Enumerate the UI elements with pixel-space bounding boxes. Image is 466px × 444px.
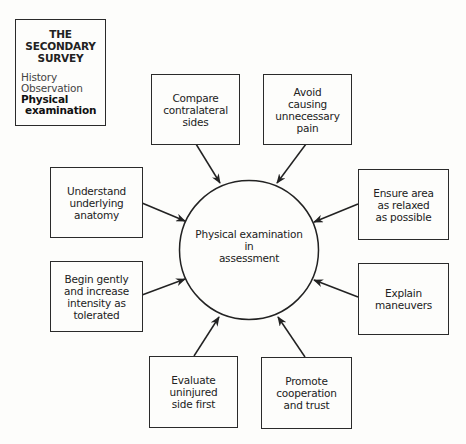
- node-avoid-label: Avoid causing unnecessary pain: [275, 86, 339, 134]
- arrow-avoid: [277, 144, 306, 183]
- node-evaluate-label: Evaluate uninjured side first: [170, 374, 218, 410]
- survey-heading: THE SECONDARY SURVEY: [21, 28, 100, 64]
- node-understand-label: Understand underlying anatomy: [67, 185, 126, 221]
- arrow-understand: [142, 203, 185, 221]
- arrow-evaluate: [194, 317, 219, 356]
- node-begin-label: Begin gently and increase intensity as t…: [64, 273, 129, 321]
- arrow-compare: [196, 144, 220, 183]
- arrow-ensure: [314, 204, 358, 222]
- node-promote: Promote cooperation and trust: [261, 357, 352, 429]
- survey-step-examination: examination: [21, 105, 100, 116]
- node-ensure: Ensure area as relaxed as possible: [358, 169, 449, 240]
- center-label: Physical examination in assessment: [190, 228, 308, 264]
- node-promote-label: Promote cooperation and trust: [276, 375, 336, 411]
- node-ensure-label: Ensure area as relaxed as possible: [373, 187, 434, 223]
- node-understand: Understand underlying anatomy: [50, 167, 143, 238]
- node-avoid: Avoid causing unnecessary pain: [263, 74, 352, 145]
- arrow-begin: [142, 279, 185, 295]
- node-explain-label: Explain maneuvers: [375, 287, 432, 311]
- secondary-survey-box: THE SECONDARY SURVEY History Observation…: [15, 19, 106, 126]
- node-explain: Explain maneuvers: [358, 263, 449, 335]
- survey-steps: History Observation Physical examination: [21, 72, 100, 116]
- arrow-promote: [278, 317, 305, 357]
- node-begin: Begin gently and increase intensity as t…: [50, 261, 143, 332]
- node-compare-label: Compare contralateral sides: [163, 92, 228, 128]
- node-evaluate: Evaluate uninjured side first: [149, 356, 238, 428]
- arrow-explain: [314, 280, 358, 297]
- node-compare: Compare contralateral sides: [151, 74, 240, 145]
